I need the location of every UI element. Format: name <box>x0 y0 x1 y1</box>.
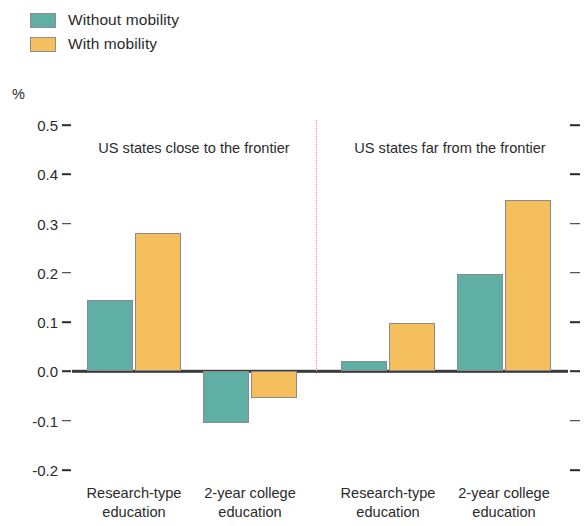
panel-divider <box>316 120 317 371</box>
x-axis-category-label: Research-typeeducation <box>341 484 436 522</box>
bar-with-mobility <box>135 233 181 371</box>
x-axis-category-label: Research-typeeducation <box>87 484 182 522</box>
bar-with-mobility <box>251 371 297 397</box>
y-axis-tick-label: 0.3 <box>4 215 58 232</box>
chart-figure: Without mobility With mobility % 0.50.40… <box>0 0 588 526</box>
y-axis-tick-mark <box>62 173 71 175</box>
y-axis-tick-mark <box>62 420 71 422</box>
y-axis-tick-mark <box>62 223 71 225</box>
y-axis-tick-label: 0.1 <box>4 314 58 331</box>
y-axis-tick-mark-right <box>570 420 580 422</box>
bar-without-mobility <box>203 371 249 423</box>
y-axis-tick-label: -0.2 <box>4 462 58 479</box>
y-axis-tick-label: 0.4 <box>4 166 58 183</box>
y-axis-tick-mark <box>62 272 71 274</box>
y-axis-tick-label: -0.1 <box>4 412 58 429</box>
y-axis-tick-mark-right <box>570 469 580 471</box>
y-axis-tick-mark <box>62 321 71 323</box>
x-axis-category-label: 2-year collegeeducation <box>204 484 296 522</box>
y-axis-tick-mark-right <box>570 223 580 225</box>
panel-title: US states far from the frontier <box>354 140 545 156</box>
bar-without-mobility <box>87 300 133 371</box>
y-axis-tick-mark <box>62 124 71 126</box>
y-axis-tick-mark-right <box>570 321 580 323</box>
y-axis-tick-mark-right <box>570 173 580 175</box>
y-axis-tick-mark <box>62 371 71 373</box>
y-axis-tick-mark-right <box>570 371 580 373</box>
bar-without-mobility <box>341 361 387 372</box>
y-axis-tick-label: 0.2 <box>4 264 58 281</box>
x-axis-category-label: 2-year collegeeducation <box>458 484 550 522</box>
y-axis-tick-mark-right <box>570 124 580 126</box>
bar-with-mobility <box>505 200 551 372</box>
panel-title: US states close to the frontier <box>98 140 289 156</box>
y-axis-tick-label: 0.0 <box>4 363 58 380</box>
plot-area: 0.50.40.30.20.10.0-0.1-0.2US states clos… <box>0 0 588 526</box>
y-axis-tick-mark <box>62 469 71 471</box>
y-axis-tick-label: 0.5 <box>4 117 58 134</box>
bar-with-mobility <box>389 323 435 371</box>
bar-without-mobility <box>457 274 503 371</box>
y-axis-tick-mark-right <box>570 272 580 274</box>
